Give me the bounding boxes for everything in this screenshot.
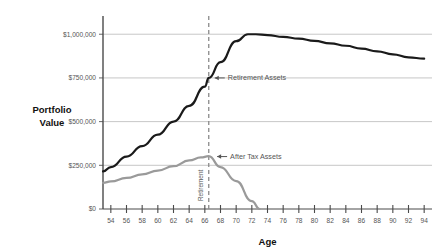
xtick-label: 72 [248, 217, 256, 224]
y-axis-title-line1: Portfolio [32, 104, 71, 115]
xtick-label: 70 [232, 217, 240, 224]
xtick-label: 74 [264, 217, 272, 224]
y-axis-title-line2: Value [40, 117, 65, 128]
xtick-label: 82 [326, 217, 334, 224]
series-line-retirement-assets [103, 34, 424, 171]
xtick-label: 80 [311, 217, 319, 224]
chart-canvas: $0$250,000$500,000$750,000$1,000,0005456… [0, 0, 440, 251]
retirement-marker-label: Retirement [197, 170, 204, 201]
xtick-label: 56 [123, 217, 131, 224]
ytick-label: $0 [89, 205, 97, 212]
ytick-label: $500,000 [68, 118, 96, 125]
portfolio-value-chart: $0$250,000$500,000$750,000$1,000,0005456… [0, 0, 440, 251]
xtick-label: 76 [279, 217, 287, 224]
ytick-label: $250,000 [68, 162, 96, 169]
xtick-label: 62 [170, 217, 178, 224]
xtick-label: 92 [405, 217, 413, 224]
ytick-label: $750,000 [68, 74, 96, 81]
xtick-label: 64 [185, 217, 193, 224]
xtick-label: 78 [295, 217, 303, 224]
xtick-label: 66 [201, 217, 209, 224]
ytick-label: $1,000,000 [63, 31, 96, 38]
xtick-label: 54 [107, 217, 115, 224]
retirement-assets-callout-text: Retirement Assets [228, 73, 287, 82]
xtick-label: 58 [138, 217, 146, 224]
xtick-label: 94 [420, 217, 428, 224]
xtick-label: 88 [373, 217, 381, 224]
series-line-after-tax-assets [103, 156, 260, 209]
after-tax-assets-callout-text: After Tax Assets [230, 152, 282, 161]
retirement-assets-callout-arrow-head [215, 76, 219, 80]
xtick-label: 90 [389, 217, 397, 224]
xtick-label: 84 [342, 217, 350, 224]
xtick-label: 60 [154, 217, 162, 224]
x-axis-title: Age [259, 236, 277, 247]
after-tax-assets-callout-arrow-head [217, 154, 221, 158]
xtick-label: 68 [217, 217, 225, 224]
xtick-label: 86 [358, 217, 366, 224]
